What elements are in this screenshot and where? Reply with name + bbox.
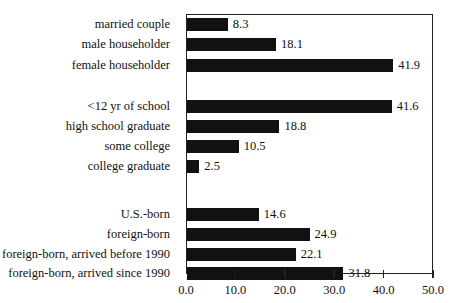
value-label: 22.1 (301, 247, 323, 261)
category-label: foreign-born, arrived since 1990 (8, 266, 170, 280)
category-label: college graduate (88, 159, 170, 173)
category-label: foreign-born, arrived before 1990 (2, 247, 170, 261)
bar (187, 248, 296, 261)
bar (187, 38, 276, 51)
x-tick-label: 0.0 (166, 283, 206, 298)
category-label: high school graduate (66, 119, 170, 133)
bar (187, 100, 392, 113)
bar (187, 208, 259, 221)
x-tick (235, 270, 237, 278)
x-tick (333, 270, 335, 278)
x-tick (432, 270, 434, 278)
category-label: some college (104, 139, 170, 153)
category-label: male householder (81, 37, 170, 51)
value-label: 18.8 (284, 119, 306, 133)
bar (187, 18, 228, 31)
bar (187, 140, 239, 153)
category-label: married couple (95, 17, 170, 31)
category-label: <12 yr of school (88, 99, 170, 113)
horizontal-bar-chart: married couple8.3male householder18.1fem… (0, 0, 460, 303)
x-tick (284, 270, 286, 278)
bar (187, 267, 343, 280)
value-label: 18.1 (281, 37, 303, 51)
x-tick-label: 50.0 (413, 283, 453, 298)
value-label: 2.5 (204, 159, 220, 173)
value-label: 41.9 (398, 58, 420, 72)
value-label: 31.8 (348, 266, 370, 280)
x-tick-label: 10.0 (215, 283, 255, 298)
x-tick-label: 30.0 (314, 283, 354, 298)
category-label: foreign-born (107, 227, 170, 241)
bar (187, 120, 279, 133)
category-label: female householder (72, 58, 170, 72)
category-label: U.S.-born (121, 207, 170, 221)
value-label: 10.5 (244, 139, 266, 153)
value-label: 41.6 (397, 99, 419, 113)
value-label: 24.9 (315, 227, 337, 241)
bar (187, 160, 199, 173)
value-label: 14.6 (264, 207, 286, 221)
bar (187, 228, 310, 241)
x-tick-label: 20.0 (265, 283, 305, 298)
value-label: 8.3 (233, 17, 249, 31)
x-tick-label: 40.0 (364, 283, 404, 298)
bar (187, 59, 393, 72)
x-tick (383, 270, 385, 278)
